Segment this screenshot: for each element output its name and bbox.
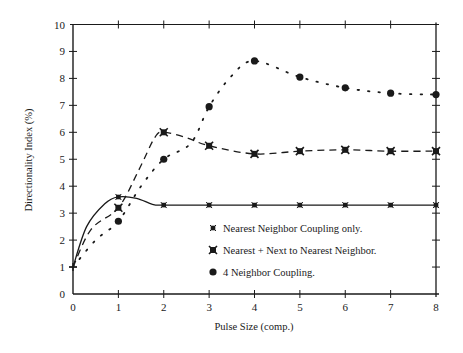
bold-x-marker-icon [209, 246, 217, 254]
x-tick-label: 8 [433, 301, 439, 313]
line-chart: 012345678 012345678910 Pulse Size (comp.… [0, 0, 463, 353]
y-tick-label: 10 [54, 19, 66, 31]
legend-item-nearest-neighbor: Nearest Neighbor Coupling only. [210, 223, 362, 234]
legend-label: 4 Neighbor Coupling. [223, 267, 315, 278]
data-markers [69, 57, 440, 271]
y-tick-label: 3 [60, 207, 66, 219]
legend-label: Nearest + Next to Nearest Neighbor. [223, 245, 376, 256]
x-axis-title: Pulse Size (comp.) [214, 321, 294, 333]
y-tick-label: 1 [60, 261, 66, 273]
y-tick-label: 4 [60, 180, 66, 192]
x-tick-label: 5 [297, 301, 303, 313]
y-tick-label: 2 [60, 234, 66, 246]
y-axis-ticks: 012345678910 [54, 19, 440, 301]
series-line [73, 61, 436, 267]
y-tick-label: 7 [60, 99, 66, 111]
filled-circle-marker-icon [209, 268, 216, 275]
y-tick-label: 9 [60, 45, 66, 57]
legend-label: Nearest Neighbor Coupling only. [223, 223, 362, 234]
x-tick-label: 4 [252, 301, 258, 313]
x-tick-label: 1 [116, 301, 122, 313]
x-tick-label: 2 [161, 301, 167, 313]
x-tick-label: 0 [70, 301, 76, 313]
y-tick-label: 6 [60, 126, 66, 138]
data-series [73, 61, 436, 267]
legend-item-4-neighbor: 4 Neighbor Coupling. [209, 267, 314, 278]
x-tick-label: 3 [206, 301, 212, 313]
y-tick-label: 5 [60, 153, 66, 165]
x-tick-label: 6 [343, 301, 349, 313]
small-x-marker-icon [210, 225, 216, 231]
y-tick-label: 0 [60, 288, 66, 300]
legend: Nearest Neighbor Coupling only. Nearest … [209, 223, 376, 278]
legend-item-next-nearest: Nearest + Next to Nearest Neighbor. [209, 245, 376, 256]
y-axis-title: Directionality Index (%) [23, 108, 35, 212]
x-tick-label: 7 [388, 301, 394, 313]
y-tick-label: 8 [60, 72, 66, 84]
